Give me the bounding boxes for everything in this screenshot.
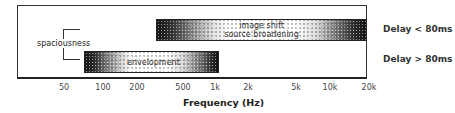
- x-tick-5k: 5k: [291, 83, 301, 92]
- x-tick-50: 50: [59, 83, 69, 92]
- spaciousness-label: spaciousness: [36, 39, 91, 48]
- delay-label-long: Delay > 80ms: [383, 54, 452, 64]
- delay-label-short: Delay < 80ms: [383, 24, 452, 34]
- band-label-source-broadening: source broadening: [157, 30, 366, 39]
- x-tick-2k: 2k: [243, 83, 253, 92]
- x-axis-label: Frequency (Hz): [183, 97, 264, 108]
- x-tick-100: 100: [95, 83, 110, 92]
- band-label-image-shift: image shift: [157, 21, 366, 30]
- x-tick-200: 200: [129, 83, 144, 92]
- x-tick-500: 500: [175, 83, 190, 92]
- x-tick-10k: 10k: [323, 83, 338, 92]
- band-label-upper: image shift source broadening: [157, 21, 366, 39]
- x-tick-20k: 20k: [362, 83, 377, 92]
- band-image-shift-source-broadening: image shift source broadening: [156, 19, 367, 41]
- x-tick-1k: 1k: [210, 83, 220, 92]
- band-envelopment: envelopment: [84, 51, 219, 73]
- band-label-envelopment: envelopment: [127, 58, 180, 67]
